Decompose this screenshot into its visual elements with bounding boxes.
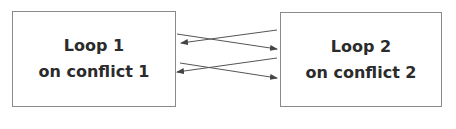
edges-layer	[0, 0, 456, 129]
